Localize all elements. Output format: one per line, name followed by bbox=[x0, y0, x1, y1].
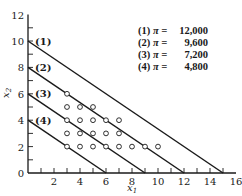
legend-num: (3) bbox=[138, 49, 153, 61]
integer-point-marker bbox=[78, 118, 83, 123]
x-tick-label: 10 bbox=[152, 176, 165, 187]
legend-symbol: π = bbox=[153, 49, 168, 61]
x-tick-label: 12 bbox=[178, 176, 191, 187]
x-tick-label: 16 bbox=[230, 176, 242, 187]
line-label-1: (1) bbox=[35, 36, 51, 47]
legend-num: (4) bbox=[138, 61, 153, 73]
integer-point-marker bbox=[78, 144, 83, 149]
legend-symbol: π = bbox=[153, 61, 168, 73]
legend-num: (2) bbox=[138, 37, 153, 49]
integer-point-marker bbox=[91, 105, 96, 110]
integer-point-marker bbox=[78, 131, 83, 136]
integer-point-marker bbox=[65, 91, 70, 96]
line-label-2: (2) bbox=[35, 62, 51, 73]
legend-item-2: (2) π = 9,600 bbox=[138, 37, 208, 49]
integer-point-marker bbox=[130, 144, 135, 149]
integer-point-marker bbox=[65, 144, 70, 149]
legend-value: 4,800 bbox=[168, 61, 208, 73]
legend-value: 7,200 bbox=[168, 49, 208, 61]
legend-value: 9,600 bbox=[168, 37, 208, 49]
y-tick-label: 8 bbox=[18, 62, 24, 73]
integer-point-marker bbox=[65, 105, 70, 110]
line-label-3: (3) bbox=[35, 88, 51, 99]
integer-point-marker bbox=[117, 131, 122, 136]
legend-item-4: (4) π = 4,800 bbox=[138, 61, 208, 73]
integer-point-marker bbox=[65, 118, 70, 123]
line-label-4: (4) bbox=[35, 115, 51, 126]
integer-point-marker bbox=[78, 105, 83, 110]
legend-value: 12,000 bbox=[168, 25, 208, 37]
y-tick-label: 4 bbox=[18, 115, 24, 126]
x-tick-label: 4 bbox=[77, 176, 83, 187]
integer-point-marker bbox=[91, 118, 96, 123]
legend-symbol: π = bbox=[153, 37, 168, 49]
integer-point-marker bbox=[104, 144, 109, 149]
y-tick-label: 6 bbox=[18, 89, 24, 100]
legend-symbol: π = bbox=[153, 25, 168, 37]
x-tick-label: 14 bbox=[204, 176, 217, 187]
integer-point-marker bbox=[104, 131, 109, 136]
integer-point-marker bbox=[91, 144, 96, 149]
y-tick-label: 10 bbox=[11, 36, 24, 47]
integer-point-marker bbox=[65, 131, 70, 136]
integer-point-marker bbox=[143, 144, 148, 149]
integer-point-marker bbox=[117, 144, 122, 149]
iso-profit-line-3 bbox=[28, 94, 145, 173]
y-tick-label: 12 bbox=[11, 10, 24, 21]
y-tick-label: 2 bbox=[18, 142, 24, 153]
integer-point-marker bbox=[91, 131, 96, 136]
x-axis-label: x1 bbox=[127, 182, 137, 195]
legend-item-3: (3) π = 7,200 bbox=[138, 49, 208, 61]
integer-point-marker bbox=[117, 118, 122, 123]
y-tick-label: 0 bbox=[18, 168, 24, 179]
legend: (1) π = 12,000 (2) π = 9,600 (3) π = 7,2… bbox=[138, 25, 208, 73]
integer-point-marker bbox=[104, 118, 109, 123]
x-tick-label: 6 bbox=[103, 176, 109, 187]
x-tick-label: 2 bbox=[51, 176, 57, 187]
y-axis-label: x2 bbox=[0, 87, 13, 98]
legend-item-1: (1) π = 12,000 bbox=[138, 25, 208, 37]
integer-point-marker bbox=[156, 144, 161, 149]
legend-num: (1) bbox=[138, 25, 153, 37]
